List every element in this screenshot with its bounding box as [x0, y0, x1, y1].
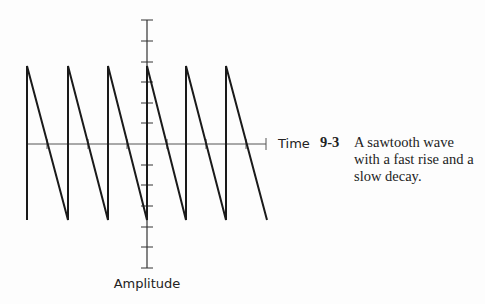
amplitude-axis-label: Amplitude — [110, 276, 184, 291]
sawtooth-waveform — [27, 66, 267, 220]
time-axis-label: Time — [278, 136, 310, 151]
caption-text: A sawtooth wave with a fast rise and a s… — [354, 134, 479, 185]
sawtooth-figure: Time Amplitude 9-3 A sawtooth wave with … — [0, 0, 485, 304]
figure-number: 9-3 — [320, 134, 339, 151]
